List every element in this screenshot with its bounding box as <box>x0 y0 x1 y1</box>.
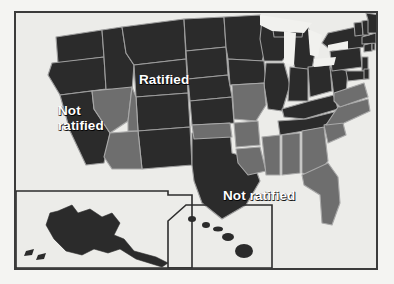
state-rhode-island[interactable] <box>372 43 375 50</box>
hawaii-island-oahu <box>202 222 210 228</box>
us-map-graphic <box>16 13 376 268</box>
state-indiana[interactable] <box>288 67 308 101</box>
state-maine[interactable] <box>366 13 376 33</box>
state-delaware[interactable] <box>364 69 369 79</box>
state-arkansas[interactable] <box>234 121 260 147</box>
hawaii-island-molokai <box>213 227 223 232</box>
figure-container: Ratified Not ratified Not ratified <box>0 0 394 284</box>
hawaii-island-hawaii <box>235 244 253 258</box>
state-vermont[interactable] <box>354 22 363 36</box>
hawaii-island-maui <box>222 233 234 241</box>
state-new-mexico[interactable] <box>138 127 192 169</box>
state-oregon[interactable] <box>48 57 106 95</box>
state-kansas[interactable] <box>190 97 234 125</box>
state-montana[interactable] <box>122 19 186 65</box>
state-connecticut[interactable] <box>364 43 372 52</box>
state-ohio[interactable] <box>308 65 332 97</box>
state-alabama[interactable] <box>282 133 300 175</box>
lake-michigan-icon <box>284 31 296 65</box>
state-arizona[interactable] <box>104 131 142 169</box>
state-maryland[interactable] <box>346 71 366 81</box>
state-wyoming[interactable] <box>134 59 188 97</box>
state-colorado[interactable] <box>136 93 190 131</box>
hawaii-island-kauai <box>188 216 196 222</box>
state-oklahoma[interactable] <box>192 123 232 139</box>
state-south-dakota[interactable] <box>186 47 228 79</box>
state-iowa[interactable] <box>228 59 266 85</box>
state-north-dakota[interactable] <box>184 17 226 51</box>
map-frame: Ratified Not ratified Not ratified <box>14 11 378 270</box>
